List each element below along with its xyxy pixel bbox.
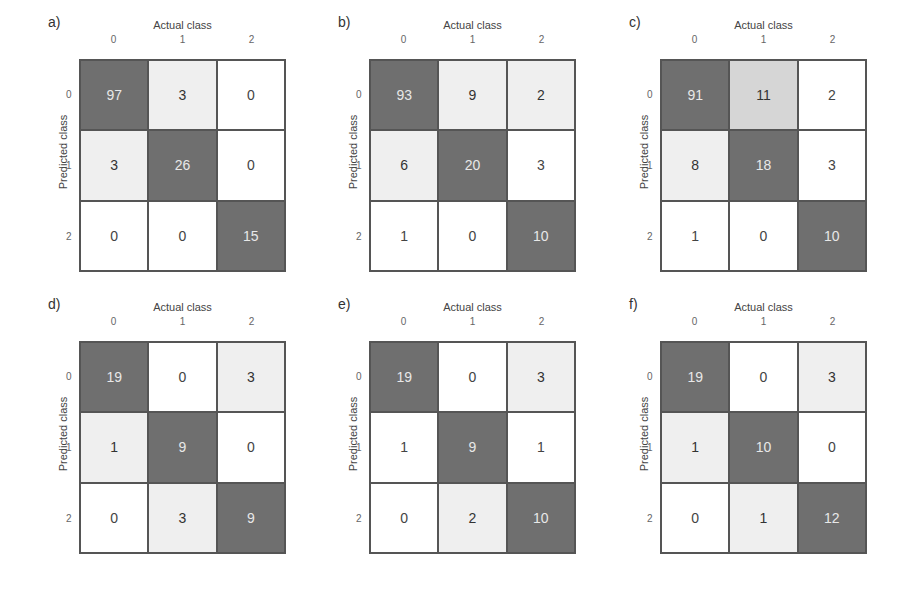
matrix-grid: 973032600015 xyxy=(79,59,286,272)
y-tick: 1 xyxy=(66,130,72,201)
x-tick: 1 xyxy=(729,34,798,45)
matrix-cell: 10 xyxy=(798,201,866,271)
matrix-cell: 97 xyxy=(80,60,148,130)
matrix-cell: 19 xyxy=(370,342,438,412)
y-tick: 2 xyxy=(356,483,362,554)
matrix-cell: 11 xyxy=(729,60,797,130)
matrix-cell: 0 xyxy=(80,483,148,553)
x-axis-ticks: 012 xyxy=(79,316,286,327)
matrix-cell: 3 xyxy=(148,60,216,130)
panel-label: e) xyxy=(338,296,350,312)
y-tick: 1 xyxy=(356,412,362,483)
confusion-matrix-panel: d)Actual class012Predicted class01219031… xyxy=(48,296,338,576)
matrix-cell: 0 xyxy=(729,201,797,271)
x-axis-ticks: 012 xyxy=(369,34,576,45)
y-tick: 1 xyxy=(66,412,72,483)
y-axis-ticks: 012 xyxy=(647,341,653,554)
matrix-cell: 3 xyxy=(80,130,148,200)
x-tick: 1 xyxy=(729,316,798,327)
x-tick: 0 xyxy=(660,316,729,327)
matrix-grid: 9111281831010 xyxy=(660,59,867,272)
y-tick: 2 xyxy=(647,201,653,272)
panel-label: b) xyxy=(338,14,350,30)
x-axis-title: Actual class xyxy=(79,301,286,313)
x-tick: 2 xyxy=(798,34,867,45)
matrix-grid: 939262031010 xyxy=(369,59,576,272)
y-tick: 1 xyxy=(647,130,653,201)
y-tick: 2 xyxy=(66,201,72,272)
y-tick: 0 xyxy=(356,59,362,130)
y-axis-ticks: 012 xyxy=(356,341,362,554)
matrix-cell: 91 xyxy=(661,60,729,130)
x-tick: 0 xyxy=(79,34,148,45)
confusion-matrix-panel: c)Actual class012Predicted class01291112… xyxy=(629,14,906,294)
x-axis-ticks: 012 xyxy=(660,316,867,327)
x-tick: 0 xyxy=(369,316,438,327)
matrix-cell: 9 xyxy=(438,60,506,130)
y-tick: 0 xyxy=(356,341,362,412)
x-tick: 2 xyxy=(217,316,286,327)
matrix-cell: 0 xyxy=(148,342,216,412)
matrix-cell: 0 xyxy=(80,201,148,271)
matrix-cell: 3 xyxy=(798,130,866,200)
x-tick: 2 xyxy=(798,316,867,327)
matrix-cell: 1 xyxy=(507,412,575,482)
confusion-matrix-panel: a)Actual class012Predicted class01297303… xyxy=(48,14,338,294)
x-axis-ticks: 012 xyxy=(660,34,867,45)
x-axis-ticks: 012 xyxy=(79,34,286,45)
y-axis-ticks: 012 xyxy=(66,341,72,554)
matrix-cell: 6 xyxy=(370,130,438,200)
x-axis-title: Actual class xyxy=(369,19,576,31)
confusion-matrix-panel: f)Actual class012Predicted class01219031… xyxy=(629,296,906,576)
x-axis-title: Actual class xyxy=(660,19,867,31)
y-tick: 0 xyxy=(66,341,72,412)
matrix-cell: 10 xyxy=(507,483,575,553)
panel-label: c) xyxy=(629,14,641,30)
panel-label: f) xyxy=(629,296,638,312)
y-tick: 2 xyxy=(647,483,653,554)
matrix-cell: 0 xyxy=(438,201,506,271)
matrix-cell: 0 xyxy=(217,60,285,130)
matrix-cell: 1 xyxy=(661,412,729,482)
x-tick: 1 xyxy=(438,34,507,45)
panel-label: d) xyxy=(48,296,60,312)
matrix-cell: 3 xyxy=(148,483,216,553)
y-tick: 2 xyxy=(356,201,362,272)
matrix-cell: 1 xyxy=(370,412,438,482)
y-tick: 0 xyxy=(647,59,653,130)
matrix-cell: 9 xyxy=(217,483,285,553)
x-tick: 2 xyxy=(217,34,286,45)
x-tick: 1 xyxy=(438,316,507,327)
matrix-cell: 3 xyxy=(507,342,575,412)
y-tick: 1 xyxy=(647,412,653,483)
y-tick: 1 xyxy=(356,130,362,201)
matrix-cell: 26 xyxy=(148,130,216,200)
x-axis-title: Actual class xyxy=(79,19,286,31)
x-tick: 0 xyxy=(660,34,729,45)
y-tick: 2 xyxy=(66,483,72,554)
x-tick: 0 xyxy=(369,34,438,45)
matrix-cell: 0 xyxy=(438,342,506,412)
x-tick: 1 xyxy=(148,34,217,45)
confusion-matrix-panel: b)Actual class012Predicted class01293926… xyxy=(338,14,628,294)
matrix-cell: 10 xyxy=(507,201,575,271)
matrix-cell: 0 xyxy=(370,483,438,553)
matrix-cell: 0 xyxy=(217,130,285,200)
matrix-cell: 0 xyxy=(217,412,285,482)
y-axis-ticks: 012 xyxy=(356,59,362,272)
matrix-cell: 19 xyxy=(80,342,148,412)
matrix-cell: 1 xyxy=(370,201,438,271)
matrix-cell: 19 xyxy=(661,342,729,412)
y-tick: 0 xyxy=(647,341,653,412)
y-axis-ticks: 012 xyxy=(647,59,653,272)
x-axis-title: Actual class xyxy=(369,301,576,313)
y-axis-ticks: 012 xyxy=(66,59,72,272)
matrix-cell: 93 xyxy=(370,60,438,130)
matrix-grid: 1903190039 xyxy=(79,341,286,554)
confusion-matrix-panel: e)Actual class012Predicted class01219031… xyxy=(338,296,628,576)
matrix-cell: 10 xyxy=(729,412,797,482)
matrix-cell: 18 xyxy=(729,130,797,200)
matrix-cell: 20 xyxy=(438,130,506,200)
matrix-cell: 3 xyxy=(507,130,575,200)
y-tick: 0 xyxy=(66,59,72,130)
